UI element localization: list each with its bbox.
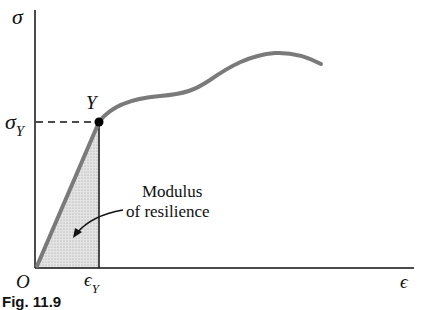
- annotation-line-2: of resilience: [126, 203, 210, 220]
- yield-stress-label: σY: [5, 111, 24, 137]
- yield-point-marker: [95, 118, 104, 127]
- yield-strain-subscript: Y: [92, 281, 99, 296]
- yield-stress-subscript: Y: [16, 123, 24, 139]
- y-axis-label: σ: [12, 6, 23, 28]
- yield-point-label: Y: [86, 93, 97, 112]
- annotation-line-1: Modulus: [142, 183, 202, 200]
- yield-strain-label: ϵY: [84, 270, 99, 293]
- x-axis-label: ϵ: [400, 272, 408, 291]
- origin-label: O: [16, 272, 30, 291]
- figure-caption: Fig. 11.9: [2, 293, 61, 310]
